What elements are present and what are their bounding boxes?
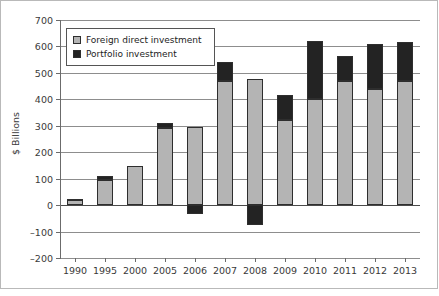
- x-axis-label-1990: 1990: [63, 265, 87, 276]
- x-axis-label-2011: 2011: [333, 265, 357, 276]
- bar-segment-fdi-2013: [397, 81, 413, 205]
- x-tick-2007: [225, 258, 226, 262]
- bar-segment-portfolio-2008: [247, 205, 263, 225]
- y-axis-label-300: 300: [35, 120, 53, 131]
- legend-item-portfolio-investment: Portfolio investment: [73, 47, 208, 61]
- x-tick-1995: [105, 258, 106, 262]
- bar-segment-portfolio-2006: [187, 205, 203, 214]
- gridline--100: [60, 232, 420, 233]
- y-tick-100: [56, 179, 61, 180]
- bar-segment-portfolio-2013: [397, 42, 413, 80]
- gridline-300: [60, 126, 420, 127]
- legend-swatch-icon-portfolio: [73, 50, 81, 58]
- y-tick-300: [56, 126, 61, 127]
- bar-segment-fdi-1995: [97, 180, 113, 205]
- gridline-100: [60, 179, 420, 180]
- x-tick-2012: [375, 258, 376, 262]
- gridline-200: [60, 152, 420, 153]
- x-tick-2009: [285, 258, 286, 262]
- x-axis-label-2006: 2006: [183, 265, 207, 276]
- y-tick--100: [56, 232, 61, 233]
- y-tick-400: [56, 99, 61, 100]
- bar-segment-portfolio-2009: [277, 95, 293, 120]
- legend-swatch-icon-fdi: [73, 36, 81, 44]
- y-axis-label--200: –200: [30, 253, 53, 264]
- x-tick-2011: [345, 258, 346, 262]
- chart-legend: Foreign direct investment Portfolio inve…: [66, 28, 215, 66]
- chart-container: $ Billions 7006005004003002001000–100–20…: [0, 0, 439, 296]
- y-tick-500: [56, 73, 61, 74]
- y-axis-label-400: 400: [35, 94, 53, 105]
- legend-item-foreign-direct-investment: Foreign direct investment: [73, 33, 208, 47]
- legend-label-portfolio: Portfolio investment: [86, 49, 177, 59]
- y-axis-title: $ Billions: [10, 94, 21, 174]
- bar-segment-portfolio-1995: [97, 176, 113, 180]
- y-tick-600: [56, 46, 61, 47]
- x-axis-label-2012: 2012: [363, 265, 387, 276]
- bar-segment-fdi-2005: [157, 128, 173, 205]
- x-tick-2000: [135, 258, 136, 262]
- y-axis-label-200: 200: [35, 147, 53, 158]
- x-tick-1990: [75, 258, 76, 262]
- gridline-400: [60, 99, 420, 100]
- y-axis-label-700: 700: [35, 15, 53, 26]
- bar-segment-portfolio-2007: [217, 62, 233, 81]
- bar-segment-portfolio-2011: [337, 56, 353, 81]
- x-axis-label-1995: 1995: [93, 265, 117, 276]
- gridline-500: [60, 73, 420, 74]
- x-tick-2013: [405, 258, 406, 262]
- y-tick-700: [56, 20, 61, 21]
- x-tick-2010: [315, 258, 316, 262]
- bar-segment-fdi-1990: [67, 200, 83, 205]
- x-axis-label-2008: 2008: [243, 265, 267, 276]
- x-axis-label-2013: 2013: [393, 265, 417, 276]
- bar-segment-portfolio-1990: [67, 199, 83, 201]
- x-axis-label-2010: 2010: [303, 265, 327, 276]
- x-tick-2008: [255, 258, 256, 262]
- y-axis-label-0: 0: [47, 200, 53, 211]
- y-axis-label-100: 100: [35, 173, 53, 184]
- y-tick-200: [56, 152, 61, 153]
- bar-segment-fdi-2012: [367, 89, 383, 205]
- legend-label-fdi: Foreign direct investment: [86, 35, 202, 45]
- gridline-700: [60, 20, 420, 21]
- bar-segment-fdi-2008: [247, 79, 263, 205]
- y-tick-0: [56, 205, 61, 206]
- bar-segment-fdi-2007: [217, 81, 233, 205]
- bar-segment-portfolio-2012: [367, 44, 383, 88]
- y-axis-label--100: –100: [30, 226, 53, 237]
- y-axis-label-600: 600: [35, 41, 53, 52]
- x-axis-label-2009: 2009: [273, 265, 297, 276]
- x-axis-label-2007: 2007: [213, 265, 237, 276]
- bar-segment-fdi-2011: [337, 81, 353, 205]
- x-axis-label-2005: 2005: [153, 265, 177, 276]
- x-axis-label-2000: 2000: [123, 265, 147, 276]
- bar-segment-fdi-2010: [307, 99, 323, 205]
- bar-segment-fdi-2006: [187, 127, 203, 206]
- bar-segment-portfolio-2005: [157, 123, 173, 129]
- y-tick--200: [56, 258, 61, 259]
- bar-segment-portfolio-2010: [307, 41, 323, 100]
- y-axis-line: [60, 20, 61, 258]
- bar-segment-fdi-2000: [127, 166, 143, 205]
- bar-segment-fdi-2009: [277, 120, 293, 205]
- x-tick-2006: [195, 258, 196, 262]
- y-axis-label-500: 500: [35, 67, 53, 78]
- x-tick-2005: [165, 258, 166, 262]
- gridline--200: [60, 258, 420, 259]
- gridline-0: [60, 205, 420, 206]
